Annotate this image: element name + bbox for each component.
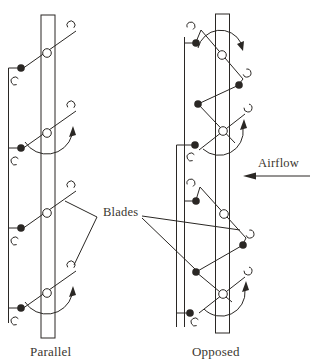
opposed-blade-2-lower-pin [191,141,199,149]
opposed-blade-2-rotation-arrow-head [240,119,247,130]
parallel-blade-2-pivot [43,129,52,138]
opposed-blade-4-rotation-arrow-head [242,281,249,292]
parallel-blade-3-lower-hook [11,237,18,245]
blades-leader-right-lower [142,218,195,269]
diagram-canvas [0,0,313,363]
opposed-blade-1-rotation-arrow-head [237,41,244,51]
airflow-label: Airflow [258,156,299,171]
opposed-blade-3-upper-pin [192,197,200,205]
opposed-duct [216,14,230,333]
parallel-blade-4-crank-pin [17,304,25,312]
parallel-blade-1-lower-hook [11,77,18,85]
opposed-blade-1-pivot [218,51,227,60]
airflow-arrow-head [243,173,256,180]
opposed-caption: Opposed [192,344,240,360]
opposed-blade-4-pivot [219,290,228,299]
parallel-blade-3-top-hook [67,181,75,188]
parallel-blade-2-rotation-arrow-head [69,126,76,137]
opposed-blade-3-pivot [220,210,229,219]
opposed-blade-3-upper-hook [187,179,195,186]
parallel-blade-1-top-hook [67,21,75,28]
opposed-blade-4-lower-hook [191,318,198,326]
opposed-blade-2-lower-hook [187,153,194,161]
opposed-blade-2-pivot [219,127,228,136]
parallel-blade-2-top-hook [67,101,75,108]
parallel-blade-3-pivot [43,209,52,218]
parallel-blade-3-crank-pin [17,224,25,232]
blades-leader-left-upper [65,201,97,217]
parallel-blade-2-lower-hook [11,157,18,165]
opposed-blade-2-top-hook [244,104,252,112]
parallel-blade-1-pivot [43,49,52,58]
opposed-blade-1-lower-hook [243,69,251,77]
parallel-blade-4-pivot [43,289,52,298]
parallel-blade-1-crank-pin [17,64,25,72]
parallel-blade-2-crank-pin [17,144,25,152]
opposed-blade-4-lower-pin [186,309,194,317]
blades-leader-left-lower [74,217,97,265]
parallel-blade-4-lower-hook [11,317,18,325]
opposed-blade-3-lower-hook [246,230,254,238]
damper-diagram-figure: Blades Airflow Parallel Opposed [0,0,313,363]
blades-label: Blades [103,205,138,220]
parallel-blade-4-rotation-arrow-head [69,286,76,297]
opposed-blade-4-top-hook [244,267,252,275]
parallel-caption: Parallel [30,344,71,360]
opposed-blade-1-upper-hook [187,22,195,29]
